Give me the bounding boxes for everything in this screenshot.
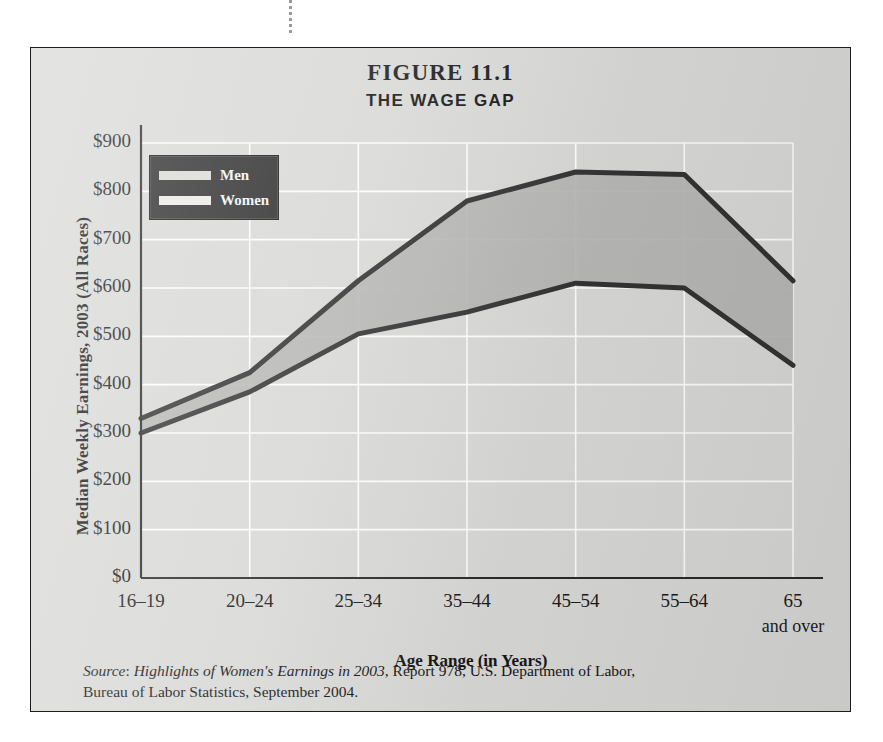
y-tick-label: $800 xyxy=(53,178,131,200)
wage-gap-line-chart xyxy=(31,48,851,712)
y-tick-label: $700 xyxy=(53,227,131,249)
page-tab-dots xyxy=(289,0,292,34)
x-tick-label: 55–64 xyxy=(629,590,739,612)
y-tick-label: $300 xyxy=(53,420,131,442)
source-rest: , Report 978, U.S. Department of Labor, xyxy=(385,662,635,679)
y-tick-label: $500 xyxy=(53,323,131,345)
y-tick-label: $0 xyxy=(53,565,131,587)
x-tick-sublabel: and over xyxy=(738,616,848,637)
x-tick-label: 45–54 xyxy=(521,590,631,612)
source-line-2: Bureau of Labor Statistics, September 20… xyxy=(83,681,823,702)
source-prefix: Source xyxy=(83,662,125,679)
plot-area xyxy=(31,48,851,712)
y-tick-label: $200 xyxy=(53,468,131,490)
legend-swatch-men xyxy=(159,171,211,180)
y-tick-label: $100 xyxy=(53,517,131,539)
x-tick-label: 65and over xyxy=(738,590,848,637)
legend-swatch-women xyxy=(159,196,211,205)
x-tick-label: 35–44 xyxy=(412,590,522,612)
chart-legend: Men Women xyxy=(149,155,279,220)
y-tick-label: $400 xyxy=(53,372,131,394)
y-tick-label: $600 xyxy=(53,275,131,297)
legend-label-men: Men xyxy=(220,167,249,184)
y-tick-label: $900 xyxy=(53,130,131,152)
source-note: Source: Highlights of Women's Earnings i… xyxy=(83,660,823,703)
legend-item-women: Women xyxy=(159,192,269,209)
legend-item-men: Men xyxy=(159,167,249,184)
x-tick-label: 16–19 xyxy=(86,590,196,612)
legend-label-women: Women xyxy=(220,192,269,209)
figure-container: FIGURE 11.1 THE WAGE GAP Median Weekly E… xyxy=(30,47,851,712)
source-title: Highlights of Women's Earnings in 2003 xyxy=(134,662,385,679)
x-tick-label: 25–34 xyxy=(303,590,413,612)
x-tick-label: 20–24 xyxy=(195,590,305,612)
